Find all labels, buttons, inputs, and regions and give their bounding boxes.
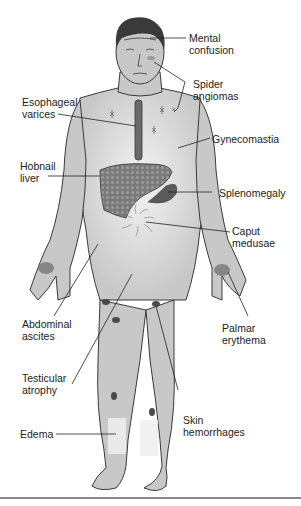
label-mental-confusion: Mental confusion: [189, 32, 234, 56]
label-testicular-atrophy: Testicular atrophy: [22, 372, 66, 396]
label-esophageal-varices: Esophageal varices: [22, 96, 77, 120]
label-skin-hemorrhages: Skin hemorrhages: [183, 414, 245, 438]
label-hobnail-liver: Hobnail liver: [20, 160, 56, 184]
label-edema: Edema: [20, 428, 53, 440]
bottom-rule: [0, 497, 301, 499]
esophagus: [135, 100, 142, 160]
label-spider-angiomas: Spider angiomas: [193, 78, 239, 102]
label-splenomegaly: Splenomegaly: [219, 187, 286, 199]
label-abdominal-ascites: Abdominal ascites: [22, 318, 72, 342]
label-caput-medusae: Caput medusae: [232, 225, 275, 249]
label-palmar-erythema: Palmar erythema: [222, 322, 266, 346]
label-gynecomastia: Gynecomastia: [212, 133, 279, 145]
